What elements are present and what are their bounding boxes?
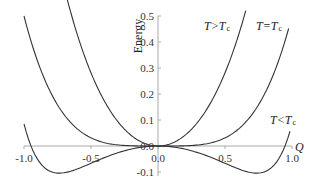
label-t-above-tc: T>Tc xyxy=(204,19,230,33)
energy-chart: -1.0-0.50.00.51.0 0.50.40.30.20.10.0-0.1… xyxy=(0,0,323,182)
curves xyxy=(24,0,290,173)
label-t-below-tc: T<Tc xyxy=(270,113,296,127)
x-tick-label: -0.5 xyxy=(82,152,100,164)
x-axis-title: Q xyxy=(295,140,304,154)
x-tick-label: 0.0 xyxy=(151,152,165,164)
y-tick-label: 0.1 xyxy=(140,114,154,126)
label-t-equals-tc: T=Tc xyxy=(256,19,282,33)
y-tick-label: 0.2 xyxy=(140,88,154,100)
y-tick-label: -0.1 xyxy=(137,166,154,178)
x-tick-label: 0.5 xyxy=(218,152,232,164)
x-tick-marks: -1.0-0.50.00.51.0 xyxy=(15,146,299,164)
curve-t-equals-tc xyxy=(24,16,289,146)
y-tick-label: 0.3 xyxy=(140,62,154,74)
x-tick-label: -1.0 xyxy=(15,152,33,164)
curve-t-below-tc xyxy=(24,124,290,173)
y-axis-title: Energy xyxy=(131,19,145,53)
